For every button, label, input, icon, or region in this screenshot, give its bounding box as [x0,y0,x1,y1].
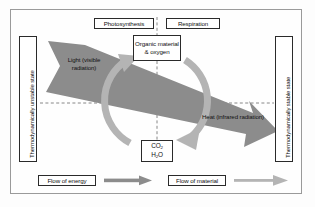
material-cycle-arrowhead-bottom [176,128,200,150]
box-co2-h2o: CO2 H2O [141,140,173,162]
formula-h2o-end: O [158,151,163,158]
legend-label-flow-of-material: Flow of material [168,175,226,186]
formula-co2: CO2 [151,142,163,151]
formula-h2o-text: H [151,151,156,158]
label-thermodynamically-unstable-state: Thermodynamically unstable state [28,70,35,158]
formula-h2o: H2O [151,151,163,160]
label-photosynthesis: Photosynthesis [94,18,154,29]
label-thermodynamically-stable-state: Thermodynamically stable state [284,77,291,158]
label-light-visible-radiation: Light (visible radiation) [55,56,113,72]
label-heat-infrared-radiation: Heat (infrared radiation) [196,113,270,121]
formula-co2-text: CO [151,142,160,149]
formula-co2-subscript: 2 [161,145,163,150]
box-organic-material: Organic material & oxygen [133,35,181,61]
legend-material-arrow-shaft [234,179,274,182]
legend-material-arrow-head [273,175,288,186]
diagram-root: Photosynthesis Respiration Organic mater… [0,0,315,207]
legend-label-flow-of-energy: Flow of energy [38,175,96,186]
formula-h2o-subscript: 2 [156,154,158,159]
label-respiration: Respiration [166,18,220,29]
legend-energy-arrow-head [139,176,152,186]
legend-energy-arrow-shaft [104,179,140,183]
